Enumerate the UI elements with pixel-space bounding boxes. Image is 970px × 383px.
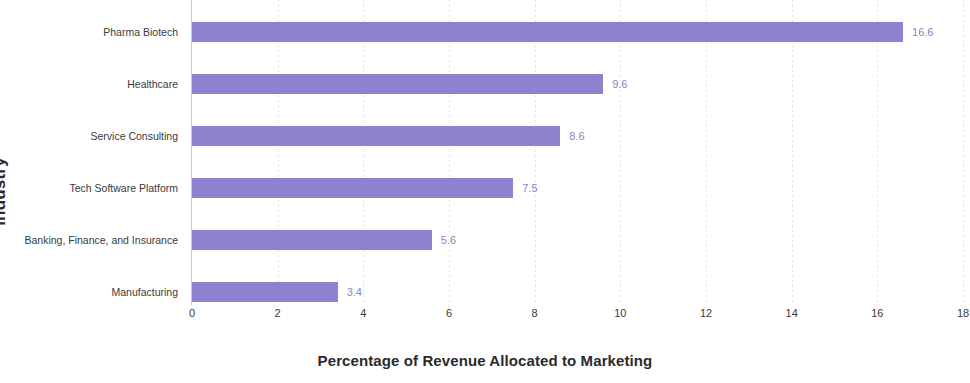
bar-value-label: 9.6	[612, 77, 627, 91]
y-axis-tick-label: Tech Software Platform	[69, 181, 178, 195]
gridline	[620, 0, 621, 305]
bar[interactable]	[192, 126, 560, 146]
y-axis-tick-labels: Pharma BiotechHealthcareService Consulti…	[0, 0, 185, 305]
bar[interactable]	[192, 22, 903, 42]
gridline	[535, 0, 536, 305]
bar-chart: Industry Pharma BiotechHealthcareService…	[0, 0, 970, 383]
x-axis-tick-label: 6	[446, 307, 452, 319]
x-axis-tick-label: 0	[189, 307, 195, 319]
bar[interactable]	[192, 282, 338, 302]
plot-area: 16.69.68.67.55.63.4	[192, 0, 963, 305]
bar[interactable]	[192, 178, 513, 198]
x-axis-tick-label: 18	[957, 307, 969, 319]
y-axis-tick-label: Healthcare	[127, 77, 178, 91]
bar[interactable]	[192, 74, 603, 94]
bar-value-label: 7.5	[522, 181, 537, 195]
x-axis-tick-label: 16	[871, 307, 883, 319]
gridline	[963, 0, 964, 305]
bar-value-label: 8.6	[569, 129, 584, 143]
y-axis-line	[191, 0, 192, 305]
x-axis-tick-label: 4	[360, 307, 366, 319]
y-axis-tick-label: Pharma Biotech	[103, 25, 178, 39]
y-axis-tick-label: Banking, Finance, and Insurance	[24, 233, 178, 247]
gridline	[363, 0, 364, 305]
x-axis-tick-label: 10	[614, 307, 626, 319]
gridline	[877, 0, 878, 305]
y-axis-tick-label: Manufacturing	[111, 285, 178, 299]
bar-value-label: 5.6	[441, 233, 456, 247]
x-axis-tick-label: 8	[532, 307, 538, 319]
x-axis-tick-label: 14	[786, 307, 798, 319]
gridline	[706, 0, 707, 305]
x-axis-tick-label: 12	[700, 307, 712, 319]
bar[interactable]	[192, 230, 432, 250]
bar-value-label: 16.6	[912, 25, 933, 39]
x-axis-tick-label: 2	[275, 307, 281, 319]
gridline	[792, 0, 793, 305]
gridline	[278, 0, 279, 305]
x-axis-tick-labels: 024681012141618	[192, 307, 963, 329]
x-axis-title: Percentage of Revenue Allocated to Marke…	[0, 352, 970, 369]
gridline	[449, 0, 450, 305]
bar-value-label: 3.4	[347, 285, 362, 299]
y-axis-tick-label: Service Consulting	[90, 129, 178, 143]
